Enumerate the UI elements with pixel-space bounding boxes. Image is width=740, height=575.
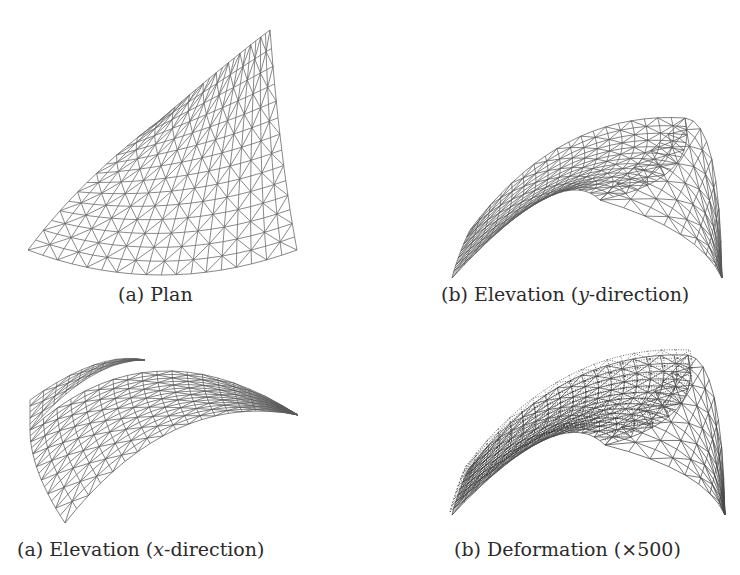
deformation-mesh xyxy=(450,350,725,515)
mesh-lines xyxy=(28,30,297,275)
caption-text: (a) Plan xyxy=(118,283,193,305)
caption-variable: x xyxy=(153,538,164,560)
caption-text: (a) Elevation ( xyxy=(17,538,153,560)
elevation-y-mesh xyxy=(452,118,722,279)
caption-text: -direction) xyxy=(164,538,264,560)
caption-elevation-y: (b) Elevation (y-direction) xyxy=(441,283,689,305)
caption-text: (b) Elevation ( xyxy=(441,283,578,305)
caption-plan: (a) Plan xyxy=(118,283,193,305)
caption-text: -direction) xyxy=(589,283,689,305)
caption-elevation-x: (a) Elevation (x-direction) xyxy=(17,538,264,560)
mesh-lines xyxy=(30,371,298,523)
plan-view-mesh xyxy=(28,30,297,275)
caption-deformation: (b) Deformation (×500) xyxy=(454,538,681,560)
elevation-x-mesh xyxy=(30,358,298,523)
caption-text: (b) Deformation (×500) xyxy=(454,538,681,560)
mesh-lines xyxy=(452,355,691,515)
mesh-lines xyxy=(452,118,687,279)
caption-variable: y xyxy=(578,283,589,305)
